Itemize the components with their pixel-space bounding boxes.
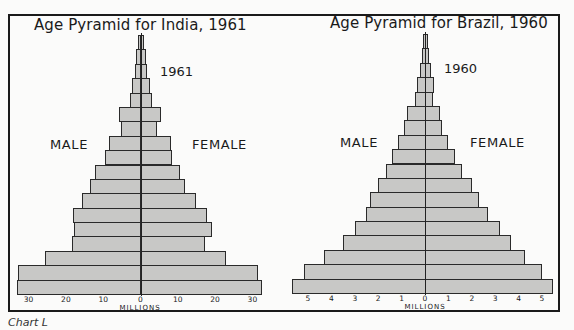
female-bar xyxy=(141,265,258,280)
male-bar xyxy=(343,235,426,250)
female-bar xyxy=(141,107,161,122)
female-bar xyxy=(141,193,196,208)
female-bar xyxy=(425,135,448,150)
female-bar xyxy=(141,121,157,136)
x-tick-label: 0 xyxy=(138,295,143,304)
male-bar xyxy=(73,208,142,223)
male-bar xyxy=(378,178,426,193)
x-tick-label: 1 xyxy=(446,294,451,303)
india-male-label: MALE xyxy=(50,137,88,152)
male-bar xyxy=(95,165,142,180)
female-bar xyxy=(141,78,151,93)
female-bar xyxy=(141,236,205,251)
x-tick-label: 30 xyxy=(24,295,34,304)
x-tick-label: 3 xyxy=(352,294,357,303)
female-bar xyxy=(425,192,479,207)
male-bar xyxy=(105,150,141,165)
india-chart-title: Age Pyramid for India, 1961 xyxy=(34,16,247,34)
x-tick-label: 1 xyxy=(399,294,404,303)
india-female-label: FEMALE xyxy=(192,137,247,152)
female-bar xyxy=(425,164,462,179)
female-bar xyxy=(425,279,553,294)
male-bar xyxy=(324,250,426,265)
india-year-label: 1961 xyxy=(160,64,193,79)
brazil-chart-title: Age Pyramid for Brazil, 1960 xyxy=(330,14,548,32)
male-bar xyxy=(366,207,426,222)
male-bar xyxy=(72,236,142,251)
female-bar xyxy=(141,251,227,266)
female-bar xyxy=(425,235,511,250)
brazil-male-label: MALE xyxy=(340,135,378,150)
x-tick-label: 3 xyxy=(493,294,498,303)
brazil-female-label: FEMALE xyxy=(470,135,525,150)
x-tick-label: 5 xyxy=(540,294,545,303)
center-axis-line xyxy=(425,32,426,295)
female-bar xyxy=(425,77,434,92)
x-tick-label: 2 xyxy=(469,294,474,303)
male-bar xyxy=(386,164,426,179)
brazil-year-label: 1960 xyxy=(444,61,477,76)
x-tick-label: 10 xyxy=(98,295,108,304)
male-bar xyxy=(121,121,141,136)
male-bar xyxy=(119,107,142,122)
x-tick-label: 2 xyxy=(376,294,381,303)
female-bar xyxy=(425,149,455,164)
female-bar xyxy=(141,222,212,237)
male-bar xyxy=(82,193,142,208)
x-tick-label: 20 xyxy=(210,295,220,304)
female-bar xyxy=(425,120,442,135)
female-bar xyxy=(141,208,208,223)
x-tick-label: 4 xyxy=(516,294,521,303)
india-x-axis-label: MILLIONS xyxy=(119,304,160,312)
male-bar xyxy=(407,106,426,121)
chart-caption: Chart L xyxy=(8,316,48,329)
male-bar xyxy=(392,149,426,164)
female-bar xyxy=(425,207,488,222)
male-bar xyxy=(404,120,426,135)
female-bar xyxy=(141,280,262,295)
female-bar xyxy=(425,178,472,193)
male-bar xyxy=(90,179,141,194)
female-bar xyxy=(425,264,542,279)
female-bar xyxy=(141,93,152,108)
female-bar xyxy=(425,250,525,265)
female-bar xyxy=(425,106,440,121)
x-tick-label: 4 xyxy=(329,294,334,303)
x-tick-label: 30 xyxy=(248,295,258,304)
male-bar xyxy=(398,135,426,150)
male-bar xyxy=(45,251,141,266)
x-tick-label: 5 xyxy=(306,294,311,303)
male-bar xyxy=(292,279,426,294)
male-bar xyxy=(109,136,141,151)
male-bar xyxy=(304,264,426,279)
x-tick-label: 10 xyxy=(173,295,183,304)
female-bar xyxy=(141,165,180,180)
female-bar xyxy=(141,150,173,165)
male-bar xyxy=(355,221,426,236)
brazil-x-axis-label: MILLIONS xyxy=(404,303,445,311)
male-bar xyxy=(74,222,141,237)
male-bar xyxy=(18,265,141,280)
male-bar xyxy=(370,192,426,207)
male-bar xyxy=(17,280,141,295)
female-bar xyxy=(425,92,433,107)
center-axis-line xyxy=(141,33,142,296)
female-bar xyxy=(141,136,171,151)
female-bar xyxy=(141,179,186,194)
x-tick-label: 20 xyxy=(61,295,71,304)
x-tick-label: 0 xyxy=(423,294,428,303)
female-bar xyxy=(425,221,500,236)
